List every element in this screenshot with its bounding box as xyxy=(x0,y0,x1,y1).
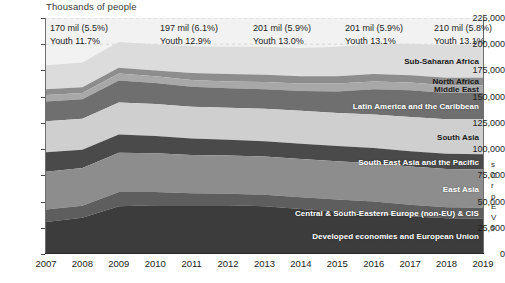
y-tick-label: 100,000 xyxy=(463,144,505,154)
x-tick-label: 2007 xyxy=(35,258,56,269)
band-label: Sub-Saharan Africa xyxy=(0,57,479,66)
x-tick-label: 2009 xyxy=(108,258,129,269)
callout-total: 170 mil (5.5%) xyxy=(50,23,108,33)
callout-annotation: 170 mil (5.5%)Youth 11.7% xyxy=(50,22,108,47)
side-caption-clipped: sCrpEVs xyxy=(491,160,505,234)
callout-annotation: 197 mil (6.1%)Youth 12.9% xyxy=(160,22,218,47)
callout-youth: Youth 11.7% xyxy=(50,35,108,48)
band-label: Central & South-Eastern Europe (non-EU) … xyxy=(0,209,479,218)
x-tick-label: 2010 xyxy=(145,258,166,269)
plot-border-right xyxy=(483,18,484,254)
y-tick-mark xyxy=(41,202,45,203)
band-label: South Asia xyxy=(0,132,479,141)
callout-youth: Youth 13.1% xyxy=(345,35,403,48)
x-tick-label: 2018 xyxy=(436,258,457,269)
callout-youth: Youth 13.1% xyxy=(434,35,492,48)
callout-annotation: 201 mil (5.9%)Youth 13.0% xyxy=(253,22,311,47)
y-axis-title: Thousands of people xyxy=(46,1,137,12)
y-tick-mark xyxy=(41,254,45,255)
x-tick-label: 2017 xyxy=(400,258,421,269)
side-caption-line: s xyxy=(491,223,505,234)
side-caption-line: s xyxy=(491,160,505,171)
band-label: South East Asia and the Pacific xyxy=(0,157,479,166)
x-tick-label: 2019 xyxy=(472,258,493,269)
y-tick-mark xyxy=(41,44,45,45)
x-tick-label: 2014 xyxy=(290,258,311,269)
callout-annotation: 210 mil (5.8%)Youth 13.1% xyxy=(434,22,492,47)
y-tick-mark xyxy=(41,175,45,176)
y-tick-mark xyxy=(41,123,45,124)
band-label: Developed economies and European Union xyxy=(0,232,479,241)
y-tick-mark xyxy=(41,70,45,71)
side-caption-line: r xyxy=(491,181,505,192)
y-tick-label: 125,000 xyxy=(463,118,505,128)
chart-figure: Thousands of people 025,00050,00075,0001… xyxy=(0,0,505,283)
x-tick-label: 2012 xyxy=(218,258,239,269)
callout-total: 210 mil (5.8%) xyxy=(434,23,492,33)
x-tick-label: 2011 xyxy=(181,258,201,269)
y-tick-mark xyxy=(41,228,45,229)
x-axis-line xyxy=(45,253,484,254)
callout-youth: Youth 13.0% xyxy=(253,35,311,48)
side-caption-line: E xyxy=(491,202,505,213)
band-label: Middle East xyxy=(0,85,479,94)
callout-total: 201 mil (5.9%) xyxy=(345,23,403,33)
side-caption-line: V xyxy=(491,213,505,224)
band-label: East Asia xyxy=(0,184,479,193)
callout-total: 197 mil (6.1%) xyxy=(160,23,218,33)
side-caption-line: p xyxy=(491,192,505,203)
y-tick-mark xyxy=(41,18,45,19)
callout-total: 201 mil (5.9%) xyxy=(253,23,311,33)
y-tick-label: 175,000 xyxy=(463,65,505,75)
x-tick-label: 2013 xyxy=(254,258,275,269)
callout-youth: Youth 12.9% xyxy=(160,35,218,48)
y-tick-mark xyxy=(41,149,45,150)
callout-annotation: 201 mil (5.9%)Youth 13.1% xyxy=(345,22,403,47)
band-label: Latin America and the Caribbean xyxy=(0,102,479,111)
x-tick-label: 2015 xyxy=(327,258,348,269)
area-bands xyxy=(46,42,483,254)
x-tick-label: 2016 xyxy=(363,258,384,269)
x-tick-label: 2008 xyxy=(72,258,93,269)
y-tick-mark xyxy=(41,97,45,98)
side-caption-line: C xyxy=(491,171,505,182)
